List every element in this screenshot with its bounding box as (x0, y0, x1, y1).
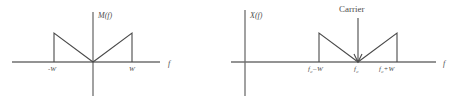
modulated-tick-fc-minus-w: fc–W (308, 66, 323, 74)
modulated-spectrum-panel: X(f) Carrier fc–W fc fc+W f (231, 0, 462, 108)
tick-fc-minus-w-term: W (317, 65, 323, 73)
tick-fc-plus-w-term: W (388, 65, 394, 73)
baseband-spectrum-plot (0, 0, 231, 108)
modulated-tick-fc-plus-w: fc+W (379, 66, 394, 74)
baseband-spectrum-panel: M(f) -W W f (0, 0, 231, 108)
modulated-x-axis-label: f (443, 60, 445, 68)
carrier-label: Carrier (339, 5, 364, 14)
baseband-x-axis-label: f (168, 60, 170, 68)
modulated-spectrum-plot (231, 0, 462, 108)
spectrum-figure: M(f) -W W f X(f) Carrier fc–W fc (0, 0, 462, 108)
baseband-function-label: M(f) (98, 12, 112, 20)
modulated-tick-fc: fc (354, 66, 358, 74)
baseband-tick-positive-w: W (129, 66, 135, 73)
baseband-tick-negative-w: -W (48, 66, 56, 73)
modulated-function-label: X(f) (250, 12, 262, 20)
tick-fc-subscript: c (356, 69, 359, 74)
